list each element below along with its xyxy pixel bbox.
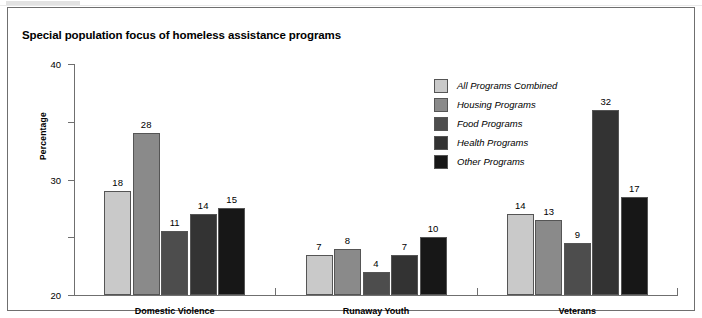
legend-label: Housing Programs <box>457 99 536 110</box>
legend-swatch <box>434 79 448 93</box>
y-axis-tick-label: 40 <box>50 59 61 70</box>
bar-value-label: 13 <box>544 206 555 217</box>
legend-label: All Programs Combined <box>457 80 557 91</box>
y-axis-tick-label: 20 <box>50 290 61 301</box>
bar <box>190 214 217 295</box>
chart-screenshot: Special population focus of homeless ass… <box>0 0 702 318</box>
bar <box>363 272 390 295</box>
chart-frame: Special population focus of homeless ass… <box>7 7 695 311</box>
bar-value-label: 28 <box>141 119 152 130</box>
y-axis-title: Percentage <box>38 112 48 160</box>
bar-value-label: 15 <box>226 194 237 205</box>
bar-value-label: 14 <box>515 200 526 211</box>
plot-area: 010203040 1828111415784710141393217 Dome… <box>74 64 678 296</box>
x-axis-end-tick <box>677 288 678 296</box>
chart-legend: All Programs CombinedHousing ProgramsFoo… <box>434 76 557 171</box>
legend-item: All Programs Combined <box>434 76 557 95</box>
x-axis-group-label: Veterans <box>559 306 597 316</box>
legend-item: Food Programs <box>434 114 557 133</box>
bar <box>306 255 333 295</box>
x-axis-group-label: Runaway Youth <box>343 306 410 316</box>
x-axis-group-label: Domestic Violence <box>135 306 215 316</box>
legend-swatch <box>434 136 448 150</box>
bar-value-label: 32 <box>601 96 612 107</box>
bar <box>133 133 160 295</box>
bar <box>334 249 361 295</box>
bar <box>592 110 619 295</box>
y-axis-tick-label: 30 <box>50 174 61 185</box>
bar <box>507 214 534 295</box>
bar <box>161 231 188 295</box>
legend-swatch <box>434 155 448 169</box>
legend-item: Other Programs <box>434 152 557 171</box>
legend-item: Health Programs <box>434 133 557 152</box>
y-axis-line <box>74 64 75 296</box>
chart-title: Special population focus of homeless ass… <box>22 29 341 41</box>
bar-value-label: 7 <box>316 241 321 252</box>
y-axis-tick: 40 <box>68 64 74 65</box>
bar-value-label: 10 <box>428 223 439 234</box>
x-axis-group-separator <box>477 288 478 296</box>
bar-value-label: 7 <box>402 241 407 252</box>
legend-item: Housing Programs <box>434 95 557 114</box>
bar <box>391 255 418 295</box>
bar <box>564 243 591 295</box>
y-axis-tick: 10 <box>68 237 74 238</box>
bar <box>535 220 562 295</box>
legend-label: Food Programs <box>457 118 522 129</box>
bar-value-label: 4 <box>373 258 378 269</box>
legend-swatch <box>434 117 448 131</box>
bar <box>104 191 131 295</box>
bar-value-label: 14 <box>198 200 209 211</box>
legend-label: Other Programs <box>457 156 525 167</box>
y-axis-tick: 30 <box>68 122 74 123</box>
y-axis-tick: 0 <box>68 295 74 296</box>
legend-swatch <box>434 98 448 112</box>
bar <box>420 237 447 295</box>
bar-value-label: 18 <box>112 177 123 188</box>
bar-value-label: 17 <box>629 183 640 194</box>
bar-value-label: 11 <box>170 217 180 228</box>
bar <box>621 197 648 295</box>
bar-value-label: 9 <box>575 229 580 240</box>
scan-artifact <box>0 0 702 7</box>
x-axis-line <box>74 295 678 296</box>
y-axis-tick: 20 <box>68 180 74 181</box>
bar-value-label: 8 <box>345 235 350 246</box>
bar <box>218 208 245 295</box>
x-axis-group-separator <box>275 288 276 296</box>
legend-label: Health Programs <box>457 137 528 148</box>
